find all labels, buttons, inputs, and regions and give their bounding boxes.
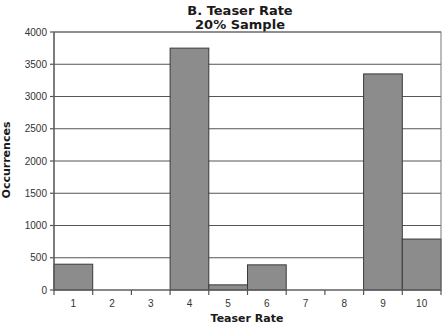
bar-5 bbox=[209, 285, 248, 290]
x-tick-label: 4 bbox=[187, 298, 193, 309]
y-tick-label: 3500 bbox=[25, 59, 48, 70]
x-tick-label: 6 bbox=[264, 298, 270, 309]
y-axis-tick-labels: 05001000150020002500300035004000 bbox=[25, 27, 48, 296]
bar-6 bbox=[248, 265, 287, 290]
y-tick-label: 2500 bbox=[25, 123, 48, 134]
x-tick-label: 1 bbox=[71, 298, 77, 309]
x-axis-tick-labels: 12345678910 bbox=[71, 298, 428, 309]
bar-4 bbox=[170, 48, 209, 290]
y-tick-label: 2000 bbox=[25, 156, 48, 167]
y-tick-label: 1000 bbox=[25, 220, 48, 231]
x-axis-title: Teaser Rate bbox=[211, 312, 284, 325]
x-tick-label: 10 bbox=[416, 298, 428, 309]
chart-title: B. Teaser Rate bbox=[187, 3, 293, 18]
y-tick-label: 0 bbox=[41, 285, 47, 296]
bar-10 bbox=[402, 239, 441, 290]
x-tick-label: 2 bbox=[109, 298, 115, 309]
chart-subtitle: 20% Sample bbox=[195, 17, 285, 32]
x-tick-label: 5 bbox=[225, 298, 231, 309]
y-tick-label: 500 bbox=[30, 252, 47, 263]
bars bbox=[54, 48, 441, 290]
y-tick-label: 4000 bbox=[25, 27, 48, 38]
bar-1 bbox=[54, 264, 93, 290]
x-tick-label: 9 bbox=[380, 298, 386, 309]
x-tick-label: 7 bbox=[303, 298, 309, 309]
x-tick-label: 3 bbox=[148, 298, 154, 309]
y-axis-title: Occurrences bbox=[0, 121, 13, 198]
y-tick-label: 1500 bbox=[25, 188, 48, 199]
bar-9 bbox=[364, 74, 403, 290]
y-tick-label: 3000 bbox=[25, 91, 48, 102]
chart: B. Teaser Rate 20% Sample 05001000150020… bbox=[0, 0, 445, 326]
x-tick-label: 8 bbox=[341, 298, 347, 309]
